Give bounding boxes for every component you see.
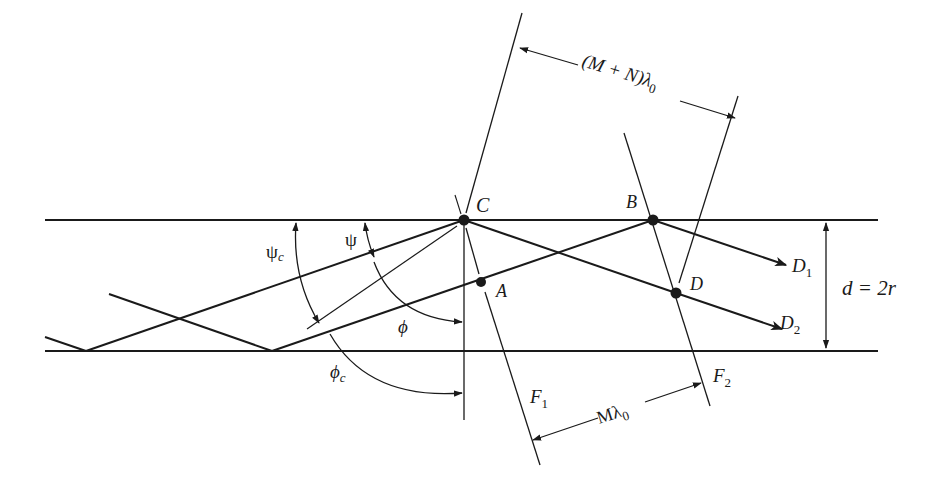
diameter-label: d = 2r bbox=[842, 276, 897, 300]
ray2-segment-to-B bbox=[272, 220, 653, 351]
wavefront-F1-lower bbox=[466, 228, 479, 274]
dimension-label-top: (M + N)λ0 bbox=[579, 50, 661, 97]
ray2-incoming bbox=[109, 294, 272, 351]
dim-bottom-arrow-right bbox=[645, 383, 701, 402]
wavefront-F2-main bbox=[624, 133, 710, 406]
phi-c-arc bbox=[330, 334, 462, 394]
label-F1: F1 bbox=[529, 386, 548, 411]
label-psi-c: ψc bbox=[266, 241, 284, 264]
wavefront-F1-upper bbox=[466, 13, 522, 213]
rays bbox=[45, 220, 786, 351]
label-psi: ψ bbox=[345, 229, 357, 250]
label-A: A bbox=[495, 281, 508, 301]
label-D2: D2 bbox=[779, 312, 800, 337]
label-D: D bbox=[689, 274, 703, 294]
wavefront-F2-upper-dim bbox=[679, 96, 738, 283]
label-C: C bbox=[476, 194, 490, 216]
wavefront-F1-bottom bbox=[485, 292, 540, 465]
point-A bbox=[476, 277, 486, 287]
psi-c-arc bbox=[295, 223, 319, 323]
dim-bottom-arrow-left bbox=[533, 418, 598, 440]
label-B: B bbox=[626, 192, 637, 212]
point-C bbox=[459, 215, 470, 226]
normal-tick-left bbox=[455, 195, 461, 214]
dim-top-arrow-right bbox=[680, 101, 735, 118]
dimension-label-bottom: Mλ0 bbox=[594, 399, 631, 431]
label-phi: ϕ bbox=[398, 316, 408, 337]
phi-arc bbox=[374, 262, 462, 322]
ray-D1 bbox=[653, 220, 786, 265]
ray1-incoming-left bbox=[45, 337, 86, 351]
point-B bbox=[648, 215, 659, 226]
point-D bbox=[671, 288, 682, 299]
dim-top-arrow-left bbox=[520, 48, 578, 65]
waveguide-diagram: (M + N)λ0 Mλ0 d = 2r C B A D D1 D2 ψc bbox=[0, 0, 935, 486]
label-phi-c: ϕc bbox=[330, 361, 346, 385]
label-D1: D1 bbox=[791, 255, 812, 280]
label-F2: F2 bbox=[712, 365, 731, 390]
ray-D2 bbox=[676, 293, 782, 329]
